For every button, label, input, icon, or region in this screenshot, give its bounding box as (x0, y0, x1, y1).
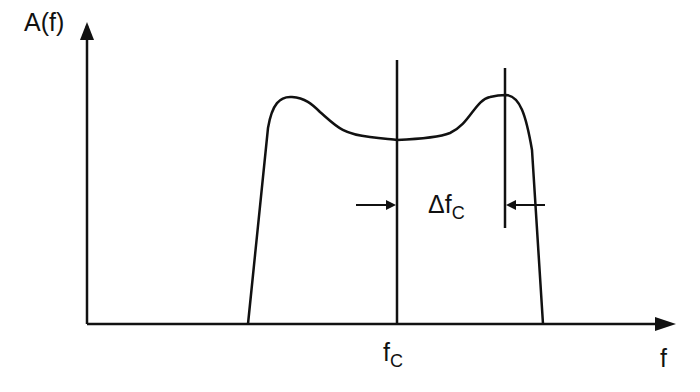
center-frequency-sub: C (390, 351, 403, 371)
bandwidth-label: ΔfC (428, 190, 465, 219)
x-axis-label: f (660, 344, 667, 373)
center-frequency-main: f (383, 338, 390, 366)
diagram-canvas (0, 0, 700, 392)
amplitude-response-curve (248, 95, 543, 324)
x-axis-arrow-icon (655, 317, 676, 331)
y-axis-arrow-icon (80, 22, 94, 40)
bandwidth-sub: C (452, 203, 465, 223)
bandwidth-main: Δf (428, 190, 452, 218)
center-frequency-label: fC (383, 338, 403, 367)
y-axis-label: A(f) (24, 8, 64, 37)
